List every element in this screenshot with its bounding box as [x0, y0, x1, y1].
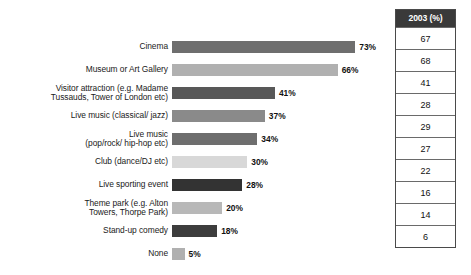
category-label: Stand-up comedy: [0, 226, 172, 235]
chart-row: Theme park (e.g. Alton Towers, Thorpe Pa…: [0, 197, 390, 219]
table-cell: 68: [396, 49, 455, 71]
chart-row: Museum or Art Gallery 66%: [0, 59, 390, 81]
bar-value-label: 34%: [261, 134, 278, 144]
category-label: Live music (classical/ jazz): [0, 111, 172, 120]
table-cell: 14: [396, 203, 455, 225]
bar-stand-up-comedy: [172, 225, 217, 237]
bar-track: 5%: [172, 243, 390, 265]
chart-row: None 5%: [0, 243, 390, 265]
table-cell: 41: [396, 71, 455, 93]
category-label: Live music (pop/rock/ hip-hop etc): [0, 130, 172, 149]
category-label: Visitor attraction (e.g. Madame Tussauds…: [0, 84, 172, 103]
bar-value-label: 41%: [279, 88, 296, 98]
bar-value-label: 28%: [246, 180, 263, 190]
bar-track: 34%: [172, 128, 390, 150]
chart-row: Cinema 73%: [0, 36, 390, 58]
bar-track: 30%: [172, 151, 390, 173]
bar-value-label: 66%: [342, 65, 359, 75]
bar-theme-park: [172, 202, 222, 214]
bar-club-dance-dj: [172, 156, 247, 168]
bar-track: 20%: [172, 197, 390, 219]
bar-value-label: 30%: [251, 157, 268, 167]
table-column-header: 2003 (%): [396, 10, 455, 27]
table-cell: 28: [396, 93, 455, 115]
table-cell: 6: [396, 225, 455, 247]
category-label: Cinema: [0, 42, 172, 51]
chart-row: Live music (pop/rock/ hip-hop etc) 34%: [0, 128, 390, 150]
chart-row: Visitor attraction (e.g. Madame Tussauds…: [0, 82, 390, 104]
bar-value-label: 73%: [359, 42, 376, 52]
chart-row: Stand-up comedy 18%: [0, 220, 390, 242]
bar-track: 73%: [172, 36, 390, 58]
category-label: Club (dance/DJ etc): [0, 157, 172, 166]
chart-row: Live music (classical/ jazz) 37%: [0, 105, 390, 127]
bar-chart-plot-area: Cinema 73% Museum or Art Gallery 66% Vis…: [0, 0, 390, 275]
bar-none: [172, 248, 185, 260]
bar-museum-or-art-gallery: [172, 64, 338, 76]
bar-value-label: 37%: [269, 111, 286, 121]
data-table-2003: 2003 (%) 67 68 41 28 29 27 22 16 14 6: [395, 9, 456, 248]
category-label: Live sporting event: [0, 180, 172, 189]
bar-track: 18%: [172, 220, 390, 242]
table-cell: 29: [396, 115, 455, 137]
table-cell: 22: [396, 159, 455, 181]
table-cell: 16: [396, 181, 455, 203]
bar-visitor-attraction: [172, 87, 275, 99]
chart-row: Live sporting event 28%: [0, 174, 390, 196]
bar-chart-figure: Cinema 73% Museum or Art Gallery 66% Vis…: [0, 0, 471, 275]
table-cell: 27: [396, 137, 455, 159]
chart-row: Club (dance/DJ etc) 30%: [0, 151, 390, 173]
bar-live-sporting-event: [172, 179, 242, 191]
bar-track: 28%: [172, 174, 390, 196]
category-label: Museum or Art Gallery: [0, 65, 172, 74]
table-cell: 67: [396, 27, 455, 49]
category-label: None: [0, 249, 172, 258]
bar-track: 66%: [172, 59, 390, 81]
bar-value-label: 20%: [226, 203, 243, 213]
bar-live-music-classical-jazz: [172, 110, 265, 122]
bar-track: 37%: [172, 105, 390, 127]
bar-live-music-pop-rock-hip-hop: [172, 133, 257, 145]
bar-value-label: 5%: [189, 249, 201, 259]
bar-value-label: 18%: [221, 226, 238, 236]
bar-cinema: [172, 41, 355, 53]
bar-track: 41%: [172, 82, 390, 104]
category-label: Theme park (e.g. Alton Towers, Thorpe Pa…: [0, 199, 172, 218]
